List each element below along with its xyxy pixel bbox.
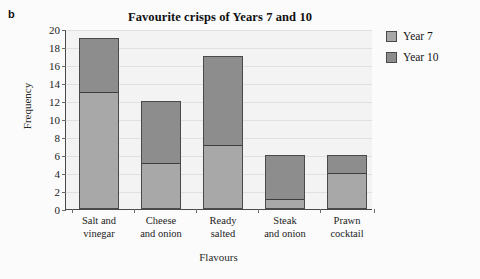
y-tick-label: 0 bbox=[55, 204, 61, 216]
legend-label: Year 10 bbox=[403, 51, 439, 63]
y-tick-mark bbox=[62, 156, 66, 157]
x-tick-mark bbox=[72, 209, 73, 213]
bar-segment-year-10[interactable] bbox=[204, 57, 242, 145]
y-tick-label: 20 bbox=[49, 24, 60, 36]
legend-label: Year 7 bbox=[403, 30, 433, 42]
plot-wrapper: 02468101214161820 Salt andvinegarCheesea… bbox=[65, 30, 372, 210]
legend-swatch bbox=[386, 52, 397, 63]
legend-item[interactable]: Year 7 bbox=[386, 30, 439, 42]
y-tick-label: 10 bbox=[49, 114, 60, 126]
x-category-label: Salt andvinegar bbox=[82, 215, 116, 240]
y-tick-mark bbox=[62, 210, 66, 211]
stacked-bar[interactable] bbox=[141, 101, 181, 209]
x-axis-title: Flavours bbox=[65, 251, 372, 263]
bar-segment-year-10[interactable] bbox=[266, 156, 304, 199]
y-tick-label: 18 bbox=[49, 42, 60, 54]
y-tick-mark bbox=[62, 174, 66, 175]
x-tick-mark bbox=[196, 209, 197, 213]
x-tick-mark bbox=[134, 209, 135, 213]
bar-segment-year-7[interactable] bbox=[80, 92, 118, 208]
stacked-bar[interactable] bbox=[265, 155, 305, 209]
legend: Year 7Year 10 bbox=[386, 30, 439, 72]
bar-segment-year-7[interactable] bbox=[328, 173, 366, 208]
y-tick-mark bbox=[62, 102, 66, 103]
chart-title: Favourite crisps of Years 7 and 10 bbox=[60, 10, 380, 25]
y-tick-label: 16 bbox=[49, 60, 60, 72]
x-tick-mark bbox=[374, 209, 375, 213]
x-tick-mark bbox=[320, 209, 321, 213]
part-label: b bbox=[8, 8, 15, 20]
stacked-bar[interactable] bbox=[327, 155, 367, 209]
stacked-bar[interactable] bbox=[203, 56, 243, 209]
y-tick-label: 12 bbox=[49, 96, 60, 108]
bar-segment-year-7[interactable] bbox=[204, 145, 242, 208]
bar-segment-year-10[interactable] bbox=[328, 156, 366, 173]
x-category-label: Steakand onion bbox=[264, 215, 306, 240]
y-tick-mark bbox=[62, 120, 66, 121]
y-tick-mark bbox=[62, 84, 66, 85]
y-tick-label: 14 bbox=[49, 78, 60, 90]
legend-swatch bbox=[386, 31, 397, 42]
stacked-bar[interactable] bbox=[79, 38, 119, 209]
plot-area: 02468101214161820 Salt andvinegarCheesea… bbox=[65, 30, 372, 210]
y-tick-mark bbox=[62, 192, 66, 193]
y-tick-label: 6 bbox=[55, 150, 61, 162]
y-tick-mark bbox=[62, 66, 66, 67]
legend-item[interactable]: Year 10 bbox=[386, 51, 439, 63]
y-tick-label: 8 bbox=[55, 132, 61, 144]
gridline bbox=[66, 30, 372, 31]
bar-segment-year-10[interactable] bbox=[80, 39, 118, 92]
x-tick-mark bbox=[258, 209, 259, 213]
x-category-label: Prawncocktail bbox=[330, 215, 363, 240]
bar-segment-year-7[interactable] bbox=[142, 163, 180, 208]
y-tick-mark bbox=[62, 138, 66, 139]
x-category-label: Cheeseand onion bbox=[140, 215, 182, 240]
y-tick-label: 4 bbox=[55, 168, 61, 180]
y-tick-label: 2 bbox=[55, 186, 61, 198]
y-tick-mark bbox=[62, 48, 66, 49]
bar-segment-year-10[interactable] bbox=[142, 102, 180, 163]
x-category-label: Readysalted bbox=[210, 215, 237, 240]
bar-segment-year-7[interactable] bbox=[266, 199, 304, 209]
y-tick-mark bbox=[62, 30, 66, 31]
y-axis-title: Frequency bbox=[21, 66, 33, 146]
